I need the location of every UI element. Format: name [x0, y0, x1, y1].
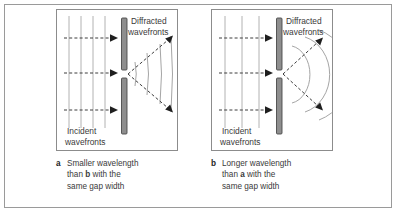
caption-b-line1: bLonger wavelength	[211, 158, 392, 169]
diffracted-rays-b	[283, 38, 323, 111]
svg-text:wavefronts: wavefronts	[219, 137, 261, 147]
caption-b-letter: b	[211, 158, 222, 169]
caption-a-line1-text: Smaller wavelength	[67, 159, 138, 168]
caption-b-line2-post: with the	[245, 170, 276, 179]
figure-column-b: Diffracted wavefronts Incident wavefront…	[198, 4, 392, 208]
incident-rays-b	[219, 34, 273, 113]
caption-a-letter: a	[56, 158, 67, 169]
caption-a-line3: same gap width	[56, 181, 198, 192]
caption-b-line3-text: same gap width	[222, 182, 279, 191]
diffracted-wavefronts-b	[292, 30, 332, 120]
caption-a-line1: aSmaller wavelength	[56, 158, 198, 169]
svg-text:wavefronts: wavefronts	[64, 137, 106, 147]
incident-wavefronts-b	[225, 16, 259, 128]
svg-text:Diffracted: Diffracted	[131, 16, 167, 26]
caption-a: aSmaller wavelength than b with the same…	[56, 158, 198, 192]
incident-label-b: Incident wavefronts	[219, 126, 261, 147]
diffracted-label-b: Diffracted wavefronts	[282, 16, 324, 37]
diffracted-wavefronts-a	[135, 36, 173, 112]
barrier-b	[277, 18, 283, 134]
diagram-panel-b: Diffracted wavefronts Incident wavefront…	[211, 9, 333, 151]
svg-text:wavefronts: wavefronts	[127, 27, 169, 37]
figure-columns: Diffracted wavefronts Incident wavefront…	[4, 4, 392, 208]
diffraction-figure: Diffracted wavefronts Incident wavefront…	[0, 0, 396, 212]
incident-rays-a	[64, 34, 118, 113]
svg-text:wavefronts: wavefronts	[282, 27, 324, 37]
barrier-a	[122, 18, 128, 134]
incident-label-a: Incident wavefronts	[64, 126, 106, 147]
caption-b-line2-pre: than	[222, 170, 240, 179]
svg-text:Diffracted: Diffracted	[286, 16, 322, 26]
figure-column-a: Diffracted wavefronts Incident wavefront…	[4, 4, 198, 208]
caption-a-line2-pre: than	[67, 170, 85, 179]
caption-b-line3: same gap width	[211, 181, 392, 192]
diffracted-label-a: Diffracted wavefronts	[127, 16, 169, 37]
caption-a-line3-text: same gap width	[67, 182, 124, 191]
caption-a-line2: than b with the	[56, 169, 198, 180]
incident-wavefronts-a	[69, 16, 105, 128]
caption-a-line2-post: with the	[90, 170, 121, 179]
caption-b-line2: than a with the	[211, 169, 392, 180]
diffracted-rays-a	[128, 36, 173, 113]
svg-text:Incident: Incident	[222, 126, 252, 136]
diagram-panel-a: Diffracted wavefronts Incident wavefront…	[56, 9, 178, 151]
caption-b: bLonger wavelength than a with the same …	[211, 158, 392, 192]
svg-text:Incident: Incident	[67, 126, 97, 136]
caption-b-line1-text: Longer wavelength	[222, 159, 291, 168]
